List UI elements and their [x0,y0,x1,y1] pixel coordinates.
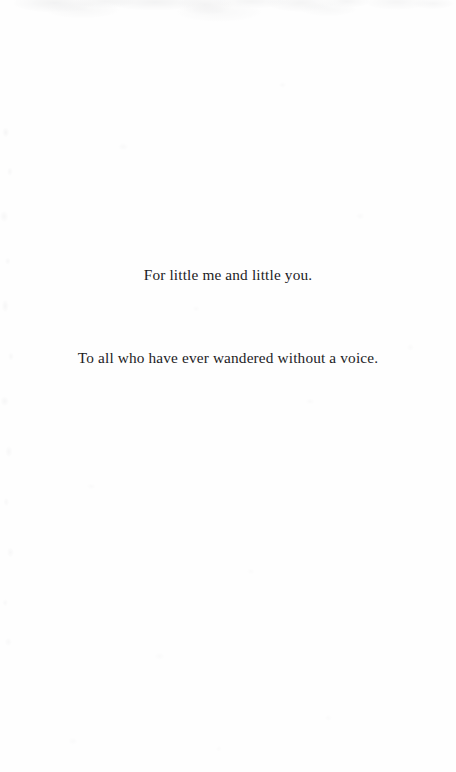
scan-artifact-top-edge [0,0,456,70]
scanned-page: For little me and little you. To all who… [0,0,456,772]
scan-artifact-speckle [0,0,456,772]
scan-artifact-left-gutter [0,110,26,670]
dedication-line-second: To all who have ever wandered without a … [0,348,456,369]
dedication-line-first: For little me and little you. [0,265,456,286]
